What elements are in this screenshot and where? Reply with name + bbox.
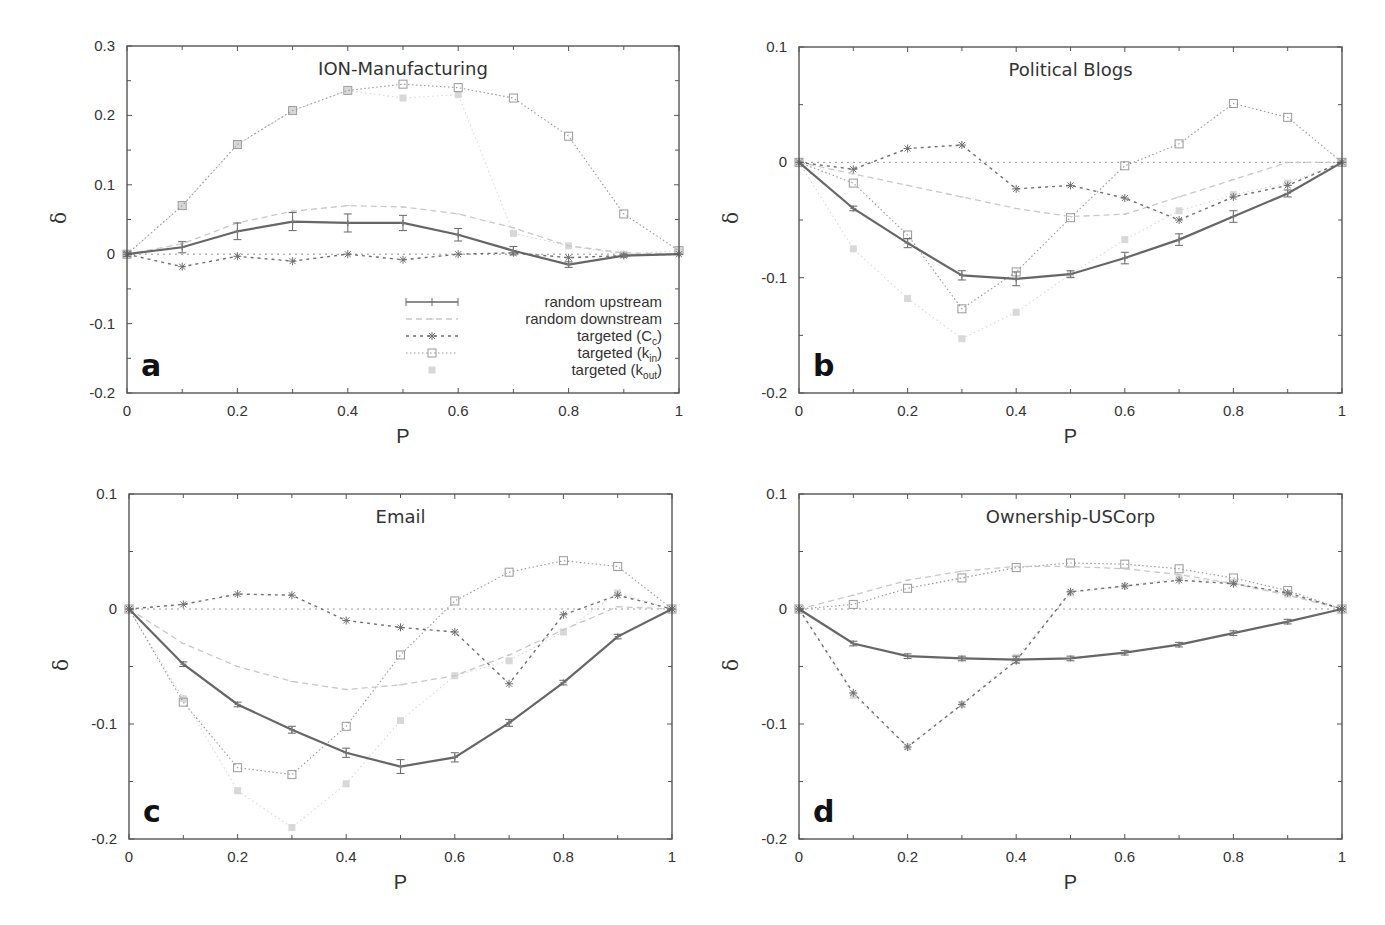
svg-text:0.1: 0.1	[766, 485, 787, 502]
svg-text:0: 0	[779, 600, 787, 617]
panel-letter-d: d	[813, 794, 834, 829]
svg-text:0.4: 0.4	[1006, 848, 1027, 865]
series-kout	[796, 574, 1346, 750]
svg-text:-0.1: -0.1	[761, 715, 787, 732]
svg-text:0.2: 0.2	[897, 848, 918, 865]
plot-area-d: -0.2-0.100.100.20.40.60.81	[0, 0, 1385, 925]
series-up	[796, 606, 1345, 663]
svg-text:1: 1	[1338, 848, 1346, 865]
series-down	[797, 566, 1344, 609]
y-axis-label-d: δ	[719, 655, 743, 675]
series-cc	[795, 576, 1346, 751]
svg-text:0.8: 0.8	[1223, 848, 1244, 865]
svg-text:0.6: 0.6	[1114, 848, 1135, 865]
panel-title-d: Ownership-USCorp	[921, 506, 1221, 527]
svg-text:0: 0	[795, 848, 803, 865]
svg-text:-0.2: -0.2	[761, 830, 787, 847]
series-kin	[795, 559, 1346, 613]
x-axis-label-d: P	[1051, 871, 1091, 894]
